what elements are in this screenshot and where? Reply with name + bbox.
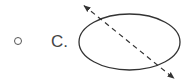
ellipse-symmetry-figure	[0, 0, 188, 84]
dashed-symmetry-line	[84, 6, 174, 79]
answer-option-c[interactable]: C.	[0, 0, 188, 84]
